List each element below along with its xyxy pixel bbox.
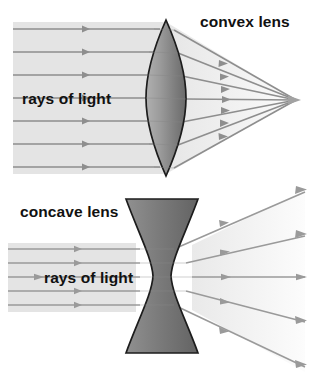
concave-lens-label: concave lens [20, 203, 119, 220]
lens-diagram: convex lens rays of light [0, 0, 326, 385]
lens-diagram-svg: convex lens rays of light [0, 0, 326, 385]
convex-rays-of-light-label: rays of light [22, 90, 111, 107]
convex-lens-label: convex lens [200, 13, 290, 30]
ray-refracted [186, 99, 296, 100]
concave-rays-of-light-label: rays of light [44, 269, 133, 286]
